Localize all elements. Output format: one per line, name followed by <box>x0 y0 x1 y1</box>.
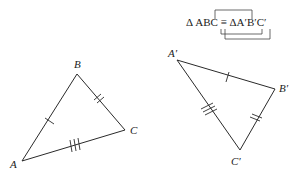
congruence-notation: Δ ABC ≡ ΔA′B′C′ <box>186 10 270 39</box>
label-b-prime: B′ <box>279 82 289 94</box>
tick-a2b2 <box>226 72 229 82</box>
bracket-b-to-b-prime <box>221 29 262 34</box>
label-c-prime: C′ <box>231 155 241 167</box>
congruent-triangles-diagram: Δ ABC ≡ ΔA′B′C′ A B C A′ B′ C′ <box>0 0 299 176</box>
triangle-abc-outline <box>22 74 125 161</box>
triangle-a2b2c2-outline <box>177 60 275 150</box>
label-a: A <box>9 158 17 170</box>
label-a-prime: A′ <box>167 47 178 59</box>
notation-text: Δ ABC ≡ ΔA′B′C′ <box>186 16 266 28</box>
triangle-a-prime-b-prime-c-prime: A′ B′ C′ <box>167 47 289 167</box>
triangle-abc: A B C <box>9 58 138 170</box>
label-c: C <box>130 124 138 136</box>
label-b: B <box>74 58 81 70</box>
